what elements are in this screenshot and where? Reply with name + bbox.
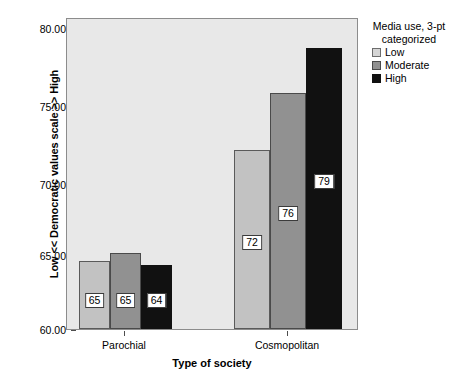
x-tick-label-parochial: Parochial xyxy=(102,339,146,351)
y-tick-mark-60 xyxy=(71,330,76,331)
legend-title-line-1: Media use, 3-pt xyxy=(364,20,454,33)
y-axis-ticks: 80.00 75.00 70.00 65.00 60.00 xyxy=(12,0,66,376)
legend-item-moderate[interactable]: Moderate xyxy=(372,60,454,71)
bars-layer: 65 65 64 72 76 79 xyxy=(67,19,357,329)
x-axis-title: Type of society xyxy=(66,357,358,369)
legend-title-line-2: categorized xyxy=(364,33,454,46)
legend-label-high: High xyxy=(385,73,407,84)
x-tick-mark-cosmopolitan xyxy=(287,331,288,336)
legend-items: Low Moderate High xyxy=(364,47,454,84)
bar-value-label: 64 xyxy=(147,293,167,308)
y-tick-label-60: 60.00 xyxy=(20,325,66,335)
plot-area: 65 65 64 72 76 79 xyxy=(66,18,358,330)
legend-title: Media use, 3-pt categorized xyxy=(364,20,454,45)
legend-item-low[interactable]: Low xyxy=(372,47,454,58)
legend-swatch-low-icon xyxy=(372,48,381,57)
y-tick-label-70: 70.00 xyxy=(20,180,66,190)
legend-label-moderate: Moderate xyxy=(385,60,429,71)
bar-value-label: 79 xyxy=(314,174,334,189)
bar-value-label: 72 xyxy=(242,235,262,250)
bar-value-label: 76 xyxy=(278,206,298,221)
legend-label-low: Low xyxy=(385,47,404,58)
bar-parochial-high[interactable]: 64 xyxy=(141,265,172,329)
x-tick-label-cosmopolitan: Cosmopolitan xyxy=(255,339,319,351)
x-tick-mark-parochial xyxy=(124,331,125,336)
bar-cosmopolitan-high[interactable]: 79 xyxy=(306,48,342,329)
bar-parochial-moderate[interactable]: 65 xyxy=(110,253,141,329)
legend-swatch-high-icon xyxy=(372,74,381,83)
bar-value-label: 65 xyxy=(85,293,105,308)
y-tick-label-65: 65.00 xyxy=(20,251,66,261)
legend-item-high[interactable]: High xyxy=(372,73,454,84)
legend: Media use, 3-pt categorized Low Moderate… xyxy=(364,20,454,86)
y-tick-label-80: 80.00 xyxy=(20,24,66,34)
bar-parochial-low[interactable]: 65 xyxy=(79,261,110,329)
y-tick-label-75: 75.00 xyxy=(20,102,66,112)
bar-cosmopolitan-moderate[interactable]: 76 xyxy=(270,93,306,329)
legend-swatch-moderate-icon xyxy=(372,61,381,70)
bar-cosmopolitan-low[interactable]: 72 xyxy=(234,150,270,329)
bar-value-label: 65 xyxy=(116,293,136,308)
bar-chart-figure: Low << Democratic values scale >> High 8… xyxy=(0,0,454,376)
